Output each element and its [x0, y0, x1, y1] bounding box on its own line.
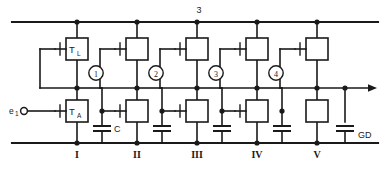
- stage-label-4: IV: [251, 149, 263, 160]
- phase-label-2: 2: [154, 70, 158, 79]
- phase-label-1: 1: [94, 70, 98, 79]
- load-transistor-sublabel: L: [77, 50, 81, 57]
- stage-label-1: I: [75, 149, 79, 160]
- capacitor-label: C: [114, 124, 121, 134]
- stage-4: [220, 22, 268, 143]
- circuit-diagram-root: 3 1 2 3 4 T L T A e 1 C GD I II III IV V: [0, 0, 385, 172]
- phase-label-3: 3: [214, 70, 218, 79]
- stage-2: [100, 22, 148, 143]
- input-sublabel: 1: [15, 110, 19, 117]
- stage-1: [28, 22, 88, 143]
- output-capacitor: [336, 126, 354, 143]
- stage-3: [160, 22, 208, 143]
- phase-label-4: 4: [274, 70, 278, 79]
- stage-label-5: V: [313, 149, 321, 160]
- top-rail-label: 3: [196, 5, 201, 15]
- ground-rail-label: GD: [358, 130, 372, 140]
- stage-label-3: III: [191, 149, 203, 160]
- circuit-schematic: 3 1 2 3 4 T L T A e 1 C GD I II III IV V: [0, 0, 385, 172]
- input-terminal[interactable]: [21, 108, 28, 115]
- top-supply-rail: [12, 19, 378, 24]
- stage-5: [280, 22, 328, 143]
- amp-transistor-label: T: [69, 106, 75, 117]
- amp-transistor-sublabel: A: [77, 112, 82, 119]
- stage-label-2: II: [133, 149, 141, 160]
- ground-rail: [12, 140, 378, 145]
- load-transistor-label: T: [69, 44, 75, 55]
- input-label: e: [9, 106, 14, 116]
